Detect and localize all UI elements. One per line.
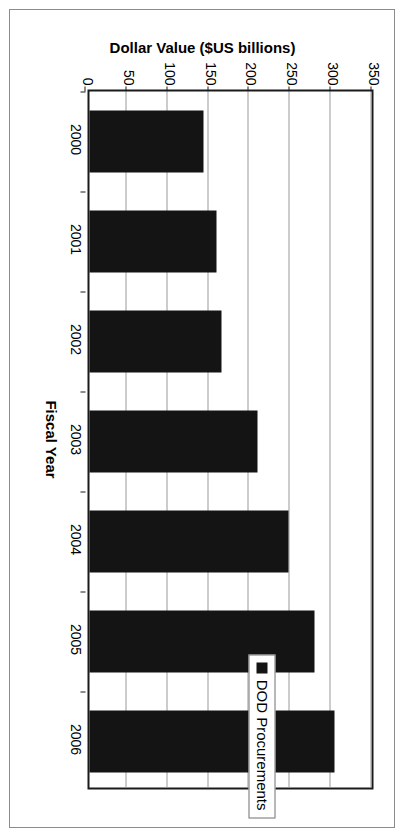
legend: DOD Procurements	[248, 654, 275, 818]
x-axis-tick-label: 2001	[67, 223, 83, 254]
y-axis-tick	[207, 86, 208, 91]
y-axis-tick	[370, 86, 371, 91]
y-axis-tick-label: 50	[120, 69, 136, 85]
bar-2002	[89, 310, 221, 372]
y-axis-tick-label: 350	[365, 62, 381, 85]
bar-2006	[89, 710, 334, 772]
bar-chart-figure: Dollar Value ($US billions) 050100150200…	[9, 9, 395, 828]
plot-area	[87, 89, 373, 789]
x-axis-tick-label-group: 2000200120022003200420052006	[61, 89, 83, 789]
bar-2004	[89, 510, 288, 572]
bar-2005	[89, 610, 314, 672]
y-axis-tick-label: 150	[202, 62, 218, 85]
x-axis-tick-label: 2005	[67, 623, 83, 654]
x-axis-title: Fiscal Year	[42, 89, 59, 789]
bar-2000	[89, 110, 203, 172]
y-axis-tick	[288, 86, 289, 91]
x-axis-tick-label: 2003	[67, 423, 83, 454]
y-axis-tick	[84, 86, 85, 91]
y-axis-tick-label: 250	[283, 62, 299, 85]
x-axis-tick-label: 2002	[67, 323, 83, 354]
y-axis-tick	[125, 86, 126, 91]
legend-swatch-icon	[256, 662, 267, 673]
legend-label: DOD Procurements	[253, 679, 270, 810]
gridline	[329, 91, 330, 787]
y-axis-tick-label: 0	[79, 77, 95, 85]
y-axis-tick	[329, 86, 330, 91]
gridline	[288, 91, 289, 787]
bar-2001	[89, 210, 216, 272]
y-axis-tick-label: 200	[242, 62, 258, 85]
x-axis-tick-label: 2004	[67, 523, 83, 554]
x-axis-tick-label: 2006	[67, 723, 83, 754]
gridline	[370, 91, 371, 787]
rotated-figure-wrapper: Dollar Value ($US billions) 050100150200…	[9, 9, 395, 828]
x-axis-tick-label: 2000	[67, 123, 83, 154]
y-axis-tick-label-group: 050100150200250300350	[87, 39, 373, 85]
y-axis-tick-label: 100	[161, 62, 177, 85]
y-axis-tick-label: 300	[324, 62, 340, 85]
y-axis-tick	[166, 86, 167, 91]
bar-2003	[89, 410, 257, 472]
y-axis-tick	[247, 86, 248, 91]
